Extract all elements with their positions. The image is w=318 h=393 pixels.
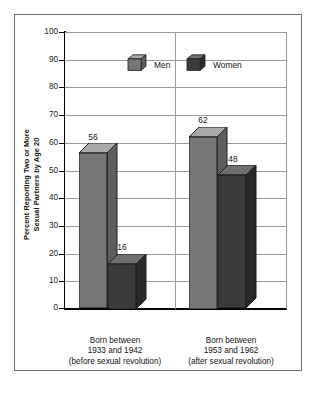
y-tick-70 xyxy=(59,115,65,116)
y-tick-label-60: 60 xyxy=(18,139,58,147)
y-tick-60 xyxy=(59,143,65,144)
legend-women-swatch-icon xyxy=(186,54,206,72)
y-tick-label-20: 20 xyxy=(18,250,58,258)
bar-women-group2-3d xyxy=(218,165,258,308)
gridline-90 xyxy=(65,60,287,61)
legend-women-label: Women xyxy=(213,60,242,70)
bar-women-group1[interactable] xyxy=(108,264,136,308)
bar-label-women-group2: 48 xyxy=(211,155,255,164)
gridline-100 xyxy=(65,32,287,33)
legend-men-label: Men xyxy=(154,60,170,70)
category-label-group2-line1: Born between xyxy=(172,336,290,346)
plot-right-edge xyxy=(286,32,287,309)
y-tick-0 xyxy=(59,308,65,309)
y-tick-20 xyxy=(59,254,65,255)
y-tick-label-10: 10 xyxy=(18,277,58,285)
gridline-80 xyxy=(65,87,287,88)
y-tick-label-70: 70 xyxy=(18,111,58,119)
chart-figure: Percent Reporting Two or More Sexual Par… xyxy=(0,0,318,393)
y-tick-label-50: 50 xyxy=(18,167,58,175)
y-tick-90 xyxy=(59,60,65,61)
bar-label-women-group1: 16 xyxy=(100,243,144,252)
category-label-group2-line3: (after sexual revolution) xyxy=(172,357,290,367)
y-tick-30 xyxy=(59,226,65,227)
y-tick-label-90: 90 xyxy=(18,56,58,64)
gridline-70 xyxy=(65,115,287,116)
category-label-group1-line1: Born between xyxy=(56,336,174,346)
y-tick-label-100: 100 xyxy=(18,28,58,36)
plot-area: 56 16 62 48 xyxy=(65,32,287,309)
y-tick-100 xyxy=(59,32,65,33)
y-tick-label-40: 40 xyxy=(18,194,58,202)
category-label-group2-line2: 1953 and 1962 xyxy=(172,346,290,356)
bar-label-men-group2: 62 xyxy=(179,116,227,125)
y-tick-label-0: 0 xyxy=(18,304,58,312)
bar-women-group2[interactable] xyxy=(218,175,246,308)
bar-women-group1-3d xyxy=(108,254,148,309)
y-tick-40 xyxy=(59,198,65,199)
y-tick-label-80: 80 xyxy=(18,83,58,91)
category-label-group1: Born between 1933 and 1942 (before sexua… xyxy=(56,336,174,367)
category-label-group1-line3: (before sexual revolution) xyxy=(56,357,174,367)
category-label-group2: Born between 1953 and 1962 (after sexual… xyxy=(172,336,290,367)
y-tick-50 xyxy=(59,171,65,172)
y-tick-10 xyxy=(59,281,65,282)
bar-men-group1[interactable] xyxy=(79,153,107,308)
group-divider-line xyxy=(175,32,176,309)
category-label-group1-line2: 1933 and 1942 xyxy=(56,346,174,356)
y-tick-80 xyxy=(59,87,65,88)
y-tick-label-30: 30 xyxy=(18,222,58,230)
bar-label-men-group1: 56 xyxy=(69,133,117,142)
legend-men-swatch-icon xyxy=(127,54,147,72)
